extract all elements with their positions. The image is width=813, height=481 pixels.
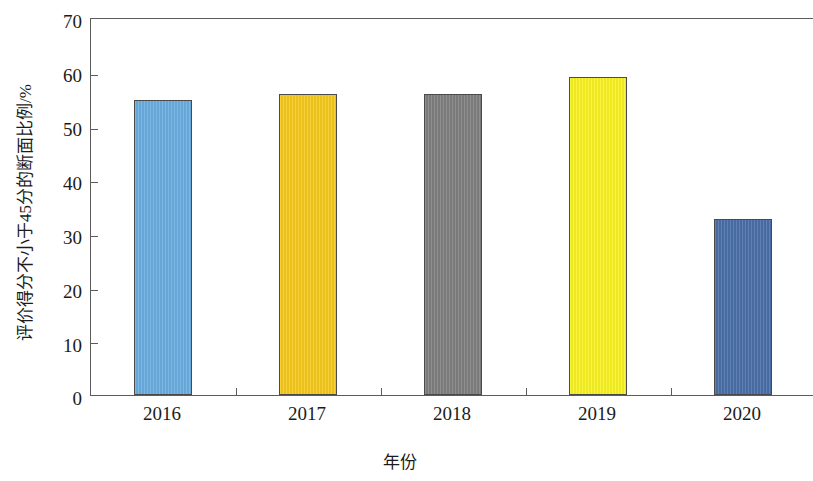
y-axis-tick-10 xyxy=(91,343,98,344)
y-tick-label-20: 20 xyxy=(36,282,82,301)
y-tick-label-30: 30 xyxy=(36,228,82,247)
y-tick-label-10: 10 xyxy=(36,336,82,355)
plot-inner xyxy=(91,19,813,395)
x-tick-label-2019: 2019 xyxy=(542,404,652,423)
x-tick-label-2018: 2018 xyxy=(397,404,507,423)
bar-2019[interactable] xyxy=(569,77,627,395)
x-axis-tick-1 xyxy=(236,388,237,395)
bar-2018[interactable] xyxy=(424,94,482,395)
y-axis-tick-30 xyxy=(91,236,98,237)
y-axis-tick-20 xyxy=(91,290,98,291)
x-axis-tick-labels: 2016 2017 2018 2019 2020 xyxy=(90,404,813,434)
plot-area xyxy=(90,18,813,396)
x-tick-label-2016: 2016 xyxy=(107,404,217,423)
x-tick-label-2020: 2020 xyxy=(687,404,797,423)
y-axis-tick-40 xyxy=(91,182,98,183)
x-axis-tick-4 xyxy=(671,388,672,395)
bar-2020[interactable] xyxy=(714,219,772,395)
y-tick-label-0: 0 xyxy=(36,389,82,408)
y-axis-tick-60 xyxy=(91,75,98,76)
y-tick-label-70: 70 xyxy=(36,12,82,31)
bar-2016[interactable] xyxy=(134,100,192,395)
y-axis-tick-labels: 70 60 50 40 30 20 10 0 xyxy=(30,0,82,420)
x-axis-tick-2 xyxy=(381,388,382,395)
y-tick-label-40: 40 xyxy=(36,174,82,193)
x-axis-tick-3 xyxy=(526,388,527,395)
y-axis-tick-50 xyxy=(91,129,98,130)
x-axis-title: 年份 xyxy=(90,448,710,473)
bar-2017[interactable] xyxy=(279,94,337,395)
y-tick-label-60: 60 xyxy=(36,66,82,85)
bar-chart-figure: 评价得分不小于45分的断面比例/% 70 60 50 40 30 20 10 0 xyxy=(0,0,813,481)
x-tick-label-2017: 2017 xyxy=(252,404,362,423)
y-tick-label-50: 50 xyxy=(36,120,82,139)
